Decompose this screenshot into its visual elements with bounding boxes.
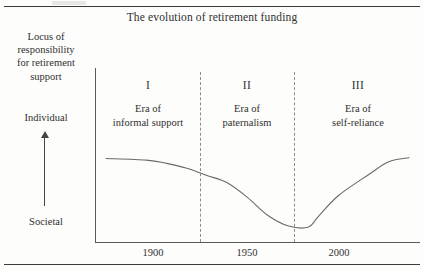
trend-curve <box>0 0 424 271</box>
x-tick-label-1900: 1900 <box>133 247 173 258</box>
figure-container: The evolution of retirement funding Locu… <box>0 0 424 271</box>
x-tick-label-2000: 2000 <box>319 247 359 258</box>
x-tick-label-1950: 1950 <box>227 247 267 258</box>
